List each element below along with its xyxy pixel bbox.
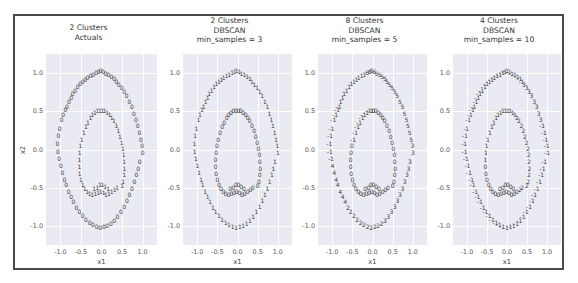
data-point: 0 bbox=[141, 150, 145, 156]
subplot-panel-2: 8 Clusters DBSCAN min_samples = 5 -1-1-1… bbox=[297, 16, 432, 268]
plot-area-2[interactable]: -1-1-1-1-1-11111111111166665555555555555… bbox=[318, 54, 427, 245]
y-axis-label-0: x2 bbox=[19, 133, 27, 167]
data-point: 0 bbox=[56, 133, 60, 139]
y-tick-label: 0.5 bbox=[24, 107, 43, 115]
x-tick-label: 0.0 bbox=[502, 248, 512, 256]
subplot-title-0: 2 Clusters Actuals bbox=[15, 23, 162, 42]
y-tick-label: -0.5 bbox=[24, 184, 43, 192]
data-point: -1 bbox=[461, 141, 467, 147]
y-tick-label: 1.0 bbox=[431, 69, 450, 77]
x-tick-label: 0.5 bbox=[522, 248, 532, 256]
x-tick-label: -0.5 bbox=[481, 248, 493, 256]
data-point: 0 bbox=[256, 183, 260, 189]
data-point: -1 bbox=[523, 209, 529, 215]
data-point: -1 bbox=[330, 117, 336, 123]
data-point: 3 bbox=[398, 192, 402, 198]
data-point: 0 bbox=[60, 117, 64, 123]
data-point: 3 bbox=[408, 159, 412, 165]
data-point: -1 bbox=[531, 192, 537, 198]
data-point: 0 bbox=[122, 204, 126, 210]
y-tick-label: 1.0 bbox=[296, 69, 315, 77]
subplot-title-3: 4 Clusters DBSCAN min_samples = 10 bbox=[432, 16, 566, 45]
x-tick-label: -1.0 bbox=[191, 248, 203, 256]
data-point: 1 bbox=[268, 179, 272, 185]
y-tick-label: -0.5 bbox=[161, 184, 180, 192]
data-point: 0 bbox=[65, 104, 69, 110]
data-point: 3 bbox=[396, 198, 400, 204]
subplot-title-1: 2 Clusters DBSCAN min_samples = 3 bbox=[162, 16, 297, 45]
data-point: 0 bbox=[377, 186, 381, 192]
x-tick-label: 0.0 bbox=[367, 248, 377, 256]
y-tick-label: -0.5 bbox=[431, 184, 450, 192]
y-tick-label: -1.0 bbox=[161, 222, 180, 230]
x-tick-label: 0.5 bbox=[117, 248, 127, 256]
data-point: 0 bbox=[119, 209, 123, 215]
data-point: -1 bbox=[540, 166, 546, 172]
data-point: 0 bbox=[251, 185, 255, 191]
plot-area-0[interactable]: 0000000000000000000000000000000000000000… bbox=[46, 54, 157, 245]
x-tick-label: 1.0 bbox=[408, 248, 418, 256]
y-tick-label: -1.0 bbox=[296, 222, 315, 230]
data-point: 3 bbox=[411, 150, 415, 156]
x-tick-label: 0.0 bbox=[232, 248, 242, 256]
data-point: 1 bbox=[120, 183, 124, 189]
data-point: 0 bbox=[242, 186, 246, 192]
x-tick-label: -0.5 bbox=[75, 248, 87, 256]
data-point: 0 bbox=[56, 141, 60, 147]
data-point: -1 bbox=[332, 112, 338, 118]
data-point: 1 bbox=[488, 130, 492, 136]
data-point: -1 bbox=[536, 179, 542, 185]
data-point: 3 bbox=[390, 209, 394, 215]
data-point: 0 bbox=[130, 186, 134, 192]
data-point: -1 bbox=[352, 130, 358, 136]
subplot-grid: 2 Clusters Actuals 000000000000000000000… bbox=[15, 16, 562, 268]
data-point: 1 bbox=[82, 130, 86, 136]
data-point: 1 bbox=[196, 117, 200, 123]
y-tick-label: 0.0 bbox=[296, 146, 315, 154]
x-tick-label: -1.0 bbox=[326, 248, 338, 256]
data-point: 1 bbox=[192, 141, 196, 147]
data-point: 1 bbox=[272, 166, 276, 172]
data-point: -1 bbox=[328, 156, 334, 162]
x-tick-label: 1.0 bbox=[138, 248, 148, 256]
y-tick-label: 0.0 bbox=[431, 146, 450, 154]
x-tick-label: 1.0 bbox=[542, 248, 552, 256]
data-point: 0 bbox=[61, 112, 65, 118]
data-point: 0 bbox=[128, 192, 132, 198]
data-point: 1 bbox=[261, 198, 265, 204]
data-point: -1 bbox=[336, 104, 342, 110]
data-point: 1 bbox=[276, 150, 280, 156]
data-point: 0 bbox=[138, 159, 142, 165]
data-point: 1 bbox=[193, 133, 197, 139]
data-point: 1 bbox=[258, 204, 262, 210]
data-point: -1 bbox=[463, 156, 469, 162]
subplot-panel-3: 4 Clusters DBSCAN min_samples = 10 -1-1-… bbox=[432, 16, 566, 268]
data-point: 3 bbox=[393, 204, 397, 210]
data-point: -1 bbox=[462, 133, 468, 139]
data-point: 0 bbox=[57, 156, 61, 162]
data-point: -1 bbox=[467, 112, 473, 118]
subplot-panel-1: 2 Clusters DBSCAN min_samples = 3 111111… bbox=[162, 16, 297, 268]
y-tick-label: -1.0 bbox=[24, 222, 43, 230]
plot-area-3[interactable]: -1-1-1-1-1-1-1-1-1-1-1-1-1-1-1-1-1-1-1-1… bbox=[453, 54, 561, 245]
data-point: 1 bbox=[198, 112, 202, 118]
x-tick-label: 0.5 bbox=[253, 248, 263, 256]
data-point: 3 bbox=[405, 172, 409, 178]
data-point: -1 bbox=[529, 198, 535, 204]
y-tick-label: -1.0 bbox=[431, 222, 450, 230]
plot-area-1[interactable]: 1111111111111111111111111111111111111111… bbox=[183, 54, 292, 245]
x-tick-label: -0.5 bbox=[346, 248, 358, 256]
data-point: 0 bbox=[135, 172, 139, 178]
data-point: -1 bbox=[526, 204, 532, 210]
data-point: 0 bbox=[511, 186, 515, 192]
data-point: -1 bbox=[538, 172, 544, 178]
data-point: 1 bbox=[202, 104, 206, 110]
data-point: 1 bbox=[263, 192, 267, 198]
data-point: 2 bbox=[520, 185, 524, 191]
data-point: -1 bbox=[544, 150, 550, 156]
x-tick-label: -1.0 bbox=[461, 248, 473, 256]
data-point: -1 bbox=[465, 117, 471, 123]
y-tick-label: 0.5 bbox=[296, 107, 315, 115]
data-point: 1 bbox=[106, 186, 110, 192]
data-point: 0 bbox=[132, 179, 136, 185]
